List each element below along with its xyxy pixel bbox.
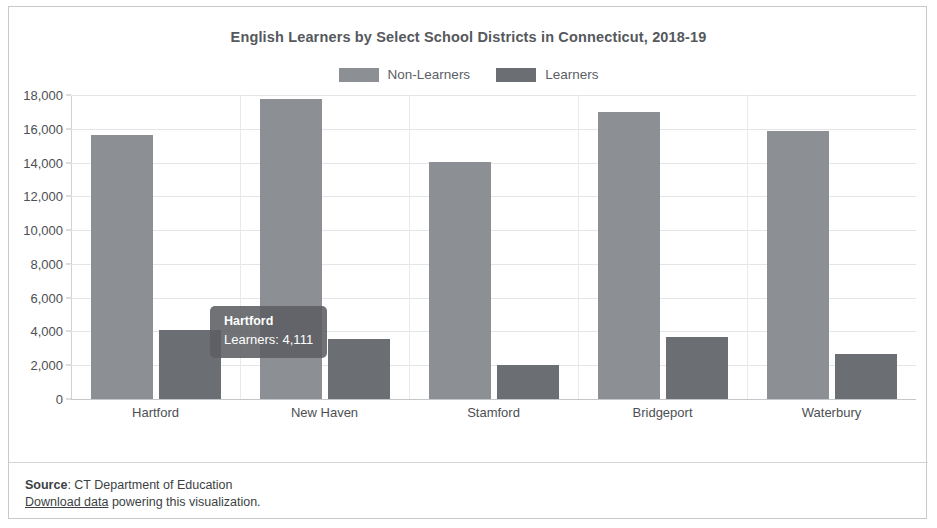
bar-bridgeport-learners[interactable] [666,337,728,399]
y-axis-tick-mark [66,196,71,197]
bar-stamford-learners[interactable] [497,365,559,399]
bar-group-stamford [429,95,559,399]
y-axis-tick-mark [66,162,71,163]
y-axis-tick-label: 8,000 [30,256,63,271]
bar-new-haven-learners[interactable] [328,339,390,399]
chart-legend: Non-Learners Learners [9,67,928,82]
y-axis-tick-label: 2,000 [30,358,63,373]
y-axis-tick-mark [66,128,71,129]
x-axis: HartfordNew HavenStamfordBridgeportWater… [71,405,916,429]
y-axis-tick-mark [66,399,71,400]
y-axis-tick-mark [66,230,71,231]
y-axis-tick-label: 10,000 [23,223,63,238]
gridline [71,399,916,400]
y-axis-tick-label: 14,000 [23,155,63,170]
y-axis-tick-label: 4,000 [30,324,63,339]
bar-hartford-learners[interactable] [159,330,221,399]
y-axis-line [71,95,72,399]
source-line: Source: CT Department of Education [25,477,261,494]
download-line: Download data powering this visualizatio… [25,494,261,511]
legend-item-learners[interactable]: Learners [496,67,598,82]
legend-label-learners: Learners [545,67,598,82]
bar-waterbury-non-learners[interactable] [767,131,829,399]
download-rest-text: powering this visualization. [108,495,260,509]
bar-group-hartford [91,95,221,399]
x-axis-label-bridgeport: Bridgeport [633,405,693,420]
legend-swatch-learners [496,68,536,82]
y-axis-tick-label: 16,000 [23,121,63,136]
visualization-frame: English Learners by Select School Distri… [8,6,927,519]
bar-hartford-non-learners[interactable] [91,135,153,399]
source-value: CT Department of Education [74,478,232,492]
y-axis-tick-mark [66,263,71,264]
footer: Source: CT Department of Education Downl… [25,477,261,511]
bar-bridgeport-non-learners[interactable] [598,112,660,399]
category-separator [240,95,241,399]
y-axis-tick-mark [66,297,71,298]
download-data-link[interactable]: Download data [25,495,108,509]
category-separator [578,95,579,399]
category-separator [409,95,410,399]
legend-label-non-learners: Non-Learners [388,67,471,82]
footer-divider [9,462,928,463]
bar-new-haven-non-learners[interactable] [260,99,322,399]
x-axis-label-hartford: Hartford [132,405,179,420]
bar-waterbury-learners[interactable] [835,354,897,399]
y-axis-tick-label: 18,000 [23,88,63,103]
y-axis-tick-mark [66,95,71,96]
y-axis-tick-mark [66,331,71,332]
y-axis-tick-mark [66,365,71,366]
category-separator [747,95,748,399]
x-axis-label-new-haven: New Haven [291,405,358,420]
bar-group-new-haven [260,95,390,399]
bar-group-bridgeport [598,95,728,399]
page-title: English Learners by Select School Distri… [9,29,928,45]
bar-group-waterbury [767,95,897,399]
plot-area: 02,0004,0006,0008,00010,00012,00014,0001… [71,95,916,399]
legend-item-non-learners[interactable]: Non-Learners [339,67,471,82]
bar-stamford-non-learners[interactable] [429,162,491,399]
source-label: Source [25,478,67,492]
x-axis-label-stamford: Stamford [467,405,520,420]
y-axis-tick-label: 6,000 [30,290,63,305]
y-axis-tick-label: 0 [56,392,63,407]
y-axis-tick-label: 12,000 [23,189,63,204]
legend-swatch-non-learners [339,68,379,82]
x-axis-label-waterbury: Waterbury [802,405,861,420]
